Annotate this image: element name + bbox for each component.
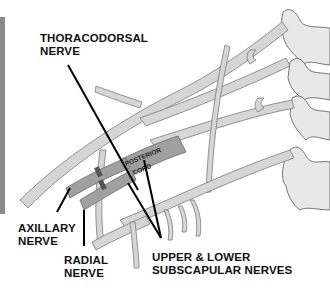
rootlet-3	[190, 200, 201, 236]
rootlet-2	[178, 206, 187, 232]
thoracodorsal-nerve-label: THORACODORSAL NERVE	[40, 32, 148, 58]
thoracodorsal-label-line1: THORACODORSAL	[40, 32, 148, 45]
subscapular-label-line1: UPPER & LOWER	[152, 251, 292, 264]
radial-nerve-label: RADIAL NERVE	[64, 254, 108, 280]
rootlet-1	[164, 210, 173, 240]
subscapular-label-line2: SUBSCAPULAR NERVES	[152, 264, 292, 277]
vertebral-column	[282, 10, 330, 210]
axillary-nerve-label: AXILLARY NERVE	[18, 222, 76, 248]
small-root-1	[247, 50, 256, 64]
vertebra-1	[282, 10, 330, 65]
vertebra-3	[290, 96, 330, 140]
axillary-leader	[57, 188, 70, 212]
subscapular-leader-lower	[144, 160, 161, 238]
anatomy-diagram: POSTERIOR CORD THORACODORSAL NERVE AXILL…	[0, 0, 330, 288]
vertebra-2	[288, 59, 330, 100]
radial-label-line1: RADIAL	[64, 254, 108, 267]
upper-branch	[95, 86, 142, 108]
radial-label-line2: NERVE	[64, 267, 108, 280]
subscapular-nerves-label: UPPER & LOWER SUBSCAPULAR NERVES	[152, 251, 292, 277]
axillary-label-line2: NERVE	[18, 235, 76, 248]
axillary-label-line1: AXILLARY	[18, 222, 76, 235]
thoracodorsal-label-line2: NERVE	[40, 45, 148, 58]
